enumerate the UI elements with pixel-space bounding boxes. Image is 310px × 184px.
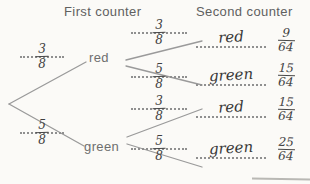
- dotted-answer-line: [20, 132, 64, 134]
- dotted-answer-line: [196, 84, 266, 86]
- fraction-bar: [35, 132, 48, 133]
- dotted-answer-line: [196, 157, 266, 159]
- fraction-numerator: 5: [131, 135, 187, 148]
- fraction-numerator: 15: [274, 96, 298, 110]
- dotted-answer-line: [131, 148, 187, 150]
- dotted-answer-line: [196, 46, 266, 48]
- prob-fraction-red-red: 3 8: [131, 19, 187, 47]
- dotted-answer-line: [131, 32, 187, 34]
- result-fraction-green-green: 25 64: [274, 136, 299, 164]
- fraction-denominator: 8: [20, 58, 64, 71]
- dotted-answer-line: [196, 116, 266, 118]
- prob-fraction-green-green: 5 8: [131, 135, 187, 163]
- fraction-numerator: 25: [274, 136, 298, 150]
- fraction-denominator: 64: [274, 110, 298, 124]
- fraction-bar: [152, 76, 165, 77]
- fraction-denominator: 8: [20, 134, 64, 147]
- worksheet-tree-diagram: First counter Second counter 3 8 5 8 red…: [0, 0, 310, 184]
- handwritten-outcome: red: [196, 97, 267, 117]
- fraction-denominator: 8: [131, 34, 187, 47]
- prob-fraction-green-red: 3 8: [131, 95, 187, 123]
- fraction-numerator: 5: [20, 119, 64, 132]
- fraction-bar: [152, 148, 165, 149]
- node-label-red: red: [89, 50, 109, 65]
- fraction-numerator: 3: [131, 95, 187, 108]
- fraction-bar: [35, 56, 48, 57]
- node-label-green: green: [84, 139, 119, 154]
- outcome-label-green-green: green: [196, 140, 266, 159]
- fraction-numerator: 3: [20, 43, 64, 56]
- fraction-denominator: 64: [274, 41, 298, 55]
- fraction-numerator: 9: [274, 27, 298, 41]
- prob-fraction-red-green: 5 8: [131, 63, 187, 91]
- handwritten-outcome: green: [196, 138, 267, 158]
- handwritten-outcome: red: [196, 27, 267, 47]
- outcome-label-red-red: red: [196, 29, 266, 48]
- fraction-bar: [152, 108, 165, 109]
- dotted-answer-line: [20, 56, 64, 58]
- dotted-answer-line: [131, 108, 187, 110]
- handwritten-outcome: green: [196, 65, 267, 85]
- fraction-denominator: 8: [131, 110, 187, 123]
- prob-fraction-first-green: 5 8: [20, 119, 64, 147]
- result-fraction-red-red: 9 64: [274, 27, 299, 55]
- fraction-numerator: 3: [131, 19, 187, 32]
- fraction-denominator: 8: [131, 150, 187, 163]
- result-fraction-red-green: 15 64: [274, 62, 299, 90]
- fraction-bar: [152, 32, 165, 33]
- fraction-numerator: 15: [274, 62, 298, 76]
- result-fraction-green-red: 15 64: [274, 96, 299, 124]
- fraction-denominator: 64: [274, 150, 298, 164]
- outcome-label-red-green: green: [196, 67, 266, 86]
- fraction-denominator: 8: [131, 78, 187, 91]
- dotted-answer-line: [131, 76, 187, 78]
- fraction-denominator: 64: [274, 76, 298, 90]
- prob-fraction-first-red: 3 8: [20, 43, 64, 71]
- outcome-label-green-red: red: [196, 99, 266, 118]
- fraction-numerator: 5: [131, 63, 187, 76]
